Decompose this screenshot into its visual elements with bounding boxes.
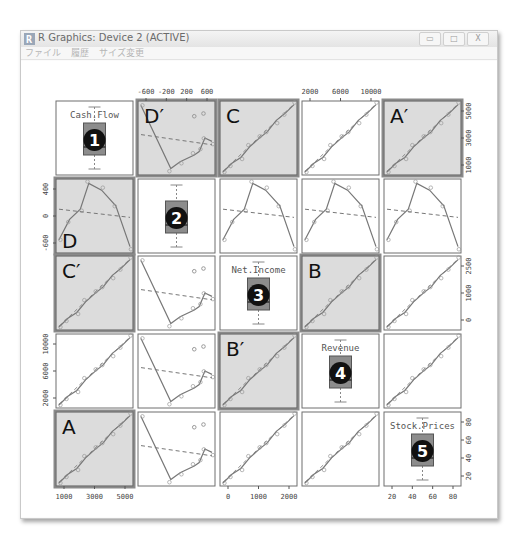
- axis-tick-label: 2000: [42, 390, 50, 407]
- plot-canvas: Cash.Flow1D′CA′D2C′Net.Income3BB′Revenue…: [21, 61, 497, 517]
- axis-tick-label: 3000: [465, 130, 473, 147]
- menu-resize[interactable]: サイズ変更: [99, 47, 144, 59]
- panel-badge: 2: [171, 209, 182, 228]
- menu-bar: ファイル 履歴 サイズ変更: [21, 47, 497, 60]
- axis-tick-label: 1000: [465, 285, 473, 302]
- axis-tick-label: 200: [180, 88, 193, 96]
- title-bar[interactable]: R R Graphics: Device 2 (ACTIVE) ▭ □ X: [21, 31, 497, 47]
- panel-letter: B′: [226, 337, 245, 361]
- axis-tick-label: 6000: [42, 363, 50, 380]
- axis-tick-label: 10000: [360, 88, 381, 96]
- variable-label: Cash.Flow: [70, 110, 119, 120]
- scatter-panel: A: [55, 411, 134, 487]
- close-button[interactable]: X: [467, 32, 489, 46]
- panel-letter: C: [226, 104, 240, 128]
- window-title: R Graphics: Device 2 (ACTIVE): [38, 32, 189, 43]
- axis-tick-label: 1000: [250, 493, 267, 501]
- axis-tick-label: 6000: [332, 88, 349, 96]
- minimize-button[interactable]: ▭: [419, 32, 441, 46]
- axis-tick-label: 80: [465, 418, 473, 426]
- scatter-panel: [220, 179, 297, 253]
- diagonal-panel: Stock.Prices5: [384, 412, 461, 486]
- scatter-panel: D′: [137, 100, 216, 176]
- scatter-panel: [138, 334, 215, 408]
- scatter-panel: [302, 179, 379, 253]
- panel-letter: A′: [390, 104, 409, 128]
- r-graphics-window: R R Graphics: Device 2 (ACTIVE) ▭ □ X ファ…: [20, 30, 498, 519]
- axis-tick-label: -600: [42, 235, 50, 252]
- window-controls: ▭ □ X: [419, 32, 489, 45]
- menu-file[interactable]: ファイル: [25, 47, 61, 59]
- scatter-panel: [384, 334, 461, 408]
- panel-badge: 4: [335, 364, 346, 383]
- panel-letter: D′: [144, 104, 164, 128]
- scatter-panel: [138, 412, 215, 486]
- scatter-panel: [56, 334, 133, 408]
- scatter-panel: [384, 256, 461, 330]
- panel-badge: 1: [89, 131, 100, 150]
- panel-letter: B: [308, 259, 322, 283]
- axis-tick-label: 3000: [86, 493, 103, 501]
- scatter-panel: A′: [383, 100, 462, 176]
- diagonal-panel: 2: [138, 179, 215, 253]
- axis-tick-label: 2500: [465, 258, 473, 275]
- axis-tick-label: 60: [465, 436, 473, 444]
- axis-tick-label: 0: [226, 493, 230, 501]
- svg-text:R: R: [26, 34, 33, 45]
- variable-label: Stock.Prices: [390, 421, 455, 431]
- axis-tick-label: 0: [42, 214, 50, 218]
- axis-tick-label: 40: [465, 454, 473, 462]
- scatter-panel: [138, 256, 215, 330]
- scatter-panel: C′: [55, 255, 134, 331]
- panel-letter: C′: [62, 259, 81, 283]
- r-logo-icon: R: [24, 33, 35, 45]
- axis-tick-label: 20: [388, 493, 396, 501]
- panel-letter: D: [62, 229, 77, 253]
- axis-tick-label: -200: [158, 88, 175, 96]
- axis-tick-label: -600: [138, 88, 155, 96]
- variable-label: Net.Income: [231, 265, 285, 275]
- scatter-panel: [302, 412, 379, 486]
- axis-tick-label: 600: [201, 88, 214, 96]
- diagonal-panel: Net.Income3: [220, 256, 297, 330]
- menu-history[interactable]: 履歴: [71, 47, 89, 59]
- scatter-panel: [302, 101, 379, 175]
- axis-tick-label: 1000: [465, 157, 473, 174]
- axis-tick-label: 400: [42, 183, 50, 196]
- axis-tick-label: 80: [449, 493, 457, 501]
- axis-tick-label: 5000: [465, 103, 473, 120]
- diagonal-panel: Cash.Flow1: [56, 101, 133, 175]
- scatterplot-matrix: Cash.Flow1D′CA′D2C′Net.Income3BB′Revenue…: [21, 61, 497, 517]
- axis-tick-label: 40: [408, 493, 416, 501]
- maximize-button[interactable]: □: [443, 32, 465, 46]
- panel-letter: A: [62, 415, 76, 439]
- variable-label: Revenue: [322, 343, 360, 353]
- scatter-panel: B: [301, 255, 380, 331]
- scatter-panel: [384, 179, 461, 253]
- axis-tick-label: 2000: [302, 88, 319, 96]
- axis-tick-label: 5000: [117, 493, 134, 501]
- scatter-panel: C: [219, 100, 298, 176]
- axis-tick-label: 20: [465, 472, 473, 480]
- panel-badge: 5: [417, 442, 428, 461]
- scatter-panel: D: [55, 178, 134, 254]
- axis-tick-label: 2000: [281, 493, 298, 501]
- axis-tick-label: 1000: [56, 493, 73, 501]
- scatter-panel: B′: [219, 333, 298, 409]
- panel-badge: 3: [253, 286, 264, 305]
- diagonal-panel: Revenue4: [302, 334, 379, 408]
- axis-tick-label: 60: [428, 493, 436, 501]
- scatter-panel: [220, 412, 297, 486]
- axis-tick-label: 0: [465, 318, 473, 322]
- axis-tick-label: 10000: [42, 333, 50, 354]
